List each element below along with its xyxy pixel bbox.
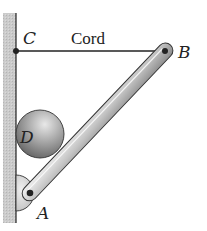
- label-c: C: [23, 28, 36, 48]
- label-b: B: [177, 42, 191, 62]
- label-d: D: [19, 127, 34, 147]
- wall: [3, 13, 16, 223]
- pin-a-icon: [27, 190, 34, 197]
- pin-c-icon: [13, 48, 19, 54]
- label-cord: Cord: [71, 29, 106, 48]
- rod-cord-ball-diagram: C Cord B D A: [0, 0, 207, 231]
- pin-b-icon: [162, 48, 168, 54]
- label-a: A: [35, 203, 49, 223]
